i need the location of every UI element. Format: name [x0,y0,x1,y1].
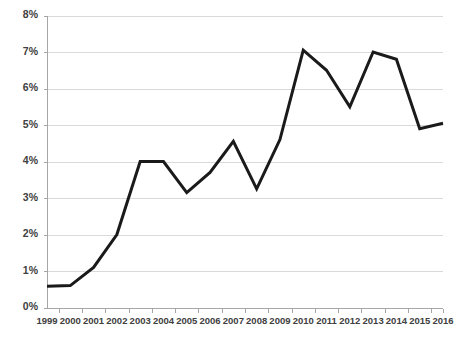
x-tick-label: 2005 [176,315,198,326]
x-tick-label: 2011 [316,315,337,326]
x-tick-label: 2006 [199,315,220,326]
x-tick-label: 2002 [106,315,127,326]
x-tick-label: 2010 [293,315,314,326]
y-tick-label: 1% [23,264,39,276]
y-tick-label: 7% [23,45,39,57]
chart-background [0,0,459,338]
x-tick-label: 2016 [432,315,453,326]
line-chart: 0%1%2%3%4%5%6%7%8% 199920002001200220032… [0,0,459,338]
chart-canvas: 0%1%2%3%4%5%6%7%8% 199920002001200220032… [0,0,459,338]
x-tick-label: 2012 [339,315,360,326]
x-tick-label: 2007 [223,315,244,326]
x-tick-label: 2014 [386,315,408,326]
x-tick-label: 2008 [246,315,267,326]
y-tick-label: 6% [23,81,39,93]
x-tick-label: 2003 [130,315,151,326]
x-tick-label: 2004 [153,315,175,326]
y-tick-label: 2% [23,227,39,239]
x-tick-label: 2000 [60,315,81,326]
x-tick-label: 2015 [409,315,431,326]
x-tick-label: 2001 [83,315,105,326]
y-tick-label: 3% [23,191,39,203]
y-tick-label: 8% [23,8,39,20]
x-tick-label: 2009 [269,315,290,326]
y-tick-label: 4% [23,154,39,166]
y-tick-labels: 0%1%2%3%4%5%6%7%8% [23,8,39,312]
y-tick-label: 5% [23,118,39,130]
x-tick-label: 1999 [36,315,57,326]
y-tick-label: 0% [23,300,39,312]
x-tick-label: 2013 [363,315,384,326]
